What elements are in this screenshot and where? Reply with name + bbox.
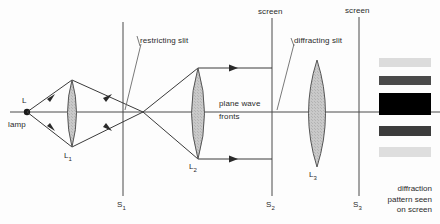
pattern-band-secondary-upper — [379, 76, 431, 85]
arrowhead-lamp-lower — [47, 123, 55, 131]
lens2-subscript: 2 — [194, 167, 197, 173]
lens1-subscript: 1 — [69, 156, 72, 162]
screen1-label: S1 — [117, 200, 126, 213]
restricting-slit-label: restricting slit — [140, 36, 188, 46]
screen3-label: S3 — [353, 200, 362, 213]
diffraction-ray-diagram: L lamp L1 L2 L3 restricting slit diffrac… — [0, 0, 440, 224]
screen3-subscript: 3 — [358, 205, 361, 211]
screen2-label: S2 — [266, 200, 275, 213]
pattern-caption-line3: on screen — [388, 205, 432, 216]
plane-wave-label-line1: plane wave — [219, 99, 260, 109]
screen-top-label-s2: screen — [258, 7, 283, 17]
ray-lamp-upper — [27, 80, 72, 112]
diffracting-slit-label: diffracting slit — [294, 36, 342, 46]
leader-restricting-slit — [125, 44, 141, 110]
screen2-subscript: 2 — [271, 205, 274, 211]
ray-focus-to-l2-upper — [143, 68, 198, 112]
lens-l2 — [192, 68, 205, 159]
lamp-label: lamp — [8, 120, 26, 130]
screen-top-label-s3: screen — [345, 6, 370, 16]
arrowhead-plane-lower — [229, 156, 238, 163]
pattern-caption-line2: pattern seen — [388, 195, 432, 206]
pattern-caption-line1: diffraction — [388, 184, 432, 195]
screen1-subscript: 1 — [122, 205, 125, 211]
pattern-band-outer-faint-lower — [379, 147, 431, 157]
lens-l3 — [309, 60, 326, 167]
lens2-label: L2 — [189, 162, 197, 175]
lens3-label: L3 — [309, 170, 317, 183]
lens-l1 — [68, 80, 77, 147]
plane-wave-label-line2: fronts — [219, 112, 240, 122]
pattern-band-central-maximum — [379, 93, 431, 115]
pattern-band-secondary-lower — [379, 126, 431, 136]
source-letter-label: L — [22, 96, 27, 106]
ray-lamp-lower — [27, 112, 72, 147]
leader-diffracting-slit — [277, 44, 294, 110]
pattern-band-outer-faint-upper — [379, 58, 431, 67]
ray-l1-lower-converge — [72, 112, 143, 147]
lens3-subscript: 3 — [314, 175, 317, 181]
lens1-label: L1 — [64, 151, 72, 164]
pattern-caption: diffraction pattern seen on screen — [388, 184, 432, 216]
ray-focus-to-l2-lower — [143, 112, 198, 159]
arrowhead-l1-upper — [103, 94, 112, 102]
arrowhead-plane-upper — [229, 65, 238, 72]
